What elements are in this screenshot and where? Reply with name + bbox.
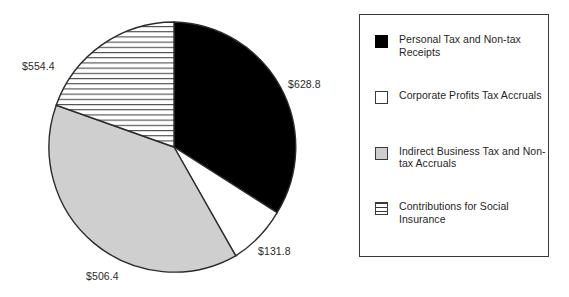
solid-white-swatch-icon xyxy=(375,91,388,104)
solid-black-swatch-icon xyxy=(375,35,388,48)
legend-item-label: Contributions for Social Insurance xyxy=(399,200,548,225)
legend-item-personal-tax[interactable]: Personal Tax and Non-tax Receipts xyxy=(360,33,548,89)
pie-chart-figure: $554.4 $628.8 $131.8 $506.4 Personal Tax… xyxy=(0,0,569,297)
legend-item-indirect-business-tax[interactable]: Indirect Business Tax and Non-tax Accrua… xyxy=(360,145,548,201)
pie-label-corporate-profits-tax: $131.8 xyxy=(258,245,291,257)
chart-legend: Personal Tax and Non-tax Receipts Corpor… xyxy=(359,14,549,257)
legend-item-label: Indirect Business Tax and Non-tax Accrua… xyxy=(399,145,548,170)
legend-item-corporate-profits-tax[interactable]: Corporate Profits Tax Accruals xyxy=(360,89,548,145)
pie-label-indirect-business-tax: $506.4 xyxy=(86,270,119,282)
horizontal-stripes-swatch-icon xyxy=(375,202,388,215)
pie-label-contributions-social-insurance: $554.4 xyxy=(22,60,55,72)
legend-item-contributions-social-insurance[interactable]: Contributions for Social Insurance xyxy=(360,200,548,256)
solid-gray-swatch-icon xyxy=(375,147,388,160)
legend-item-label: Personal Tax and Non-tax Receipts xyxy=(399,33,548,58)
pie-label-personal-tax: $628.8 xyxy=(288,78,321,90)
legend-item-label: Corporate Profits Tax Accruals xyxy=(399,89,542,102)
